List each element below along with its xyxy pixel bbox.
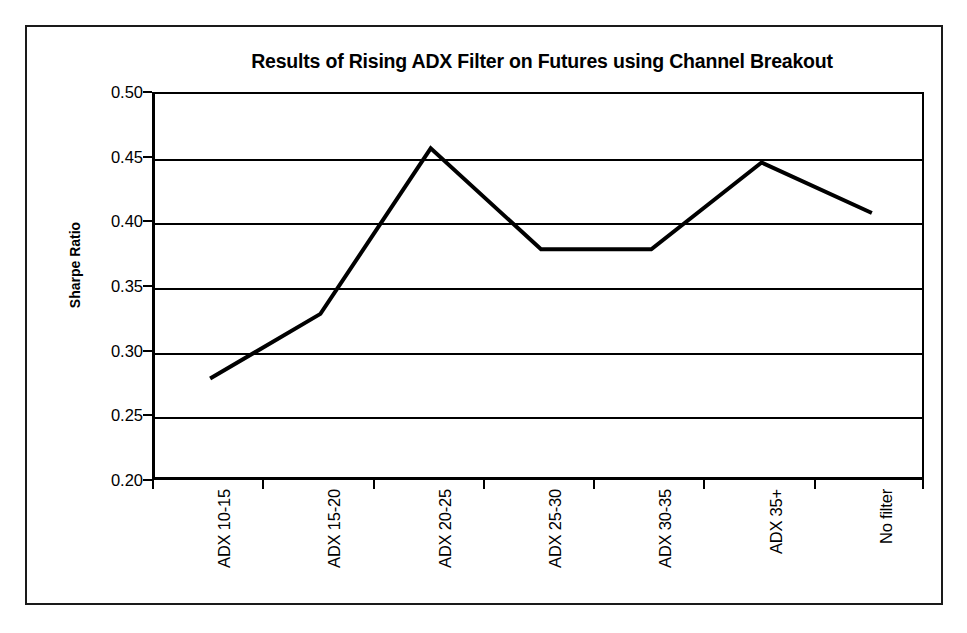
x-tick-mark: [373, 480, 375, 489]
x-tick-mark: [703, 480, 705, 489]
x-tick-mark: [593, 480, 595, 489]
y-tick-label: 0.40: [87, 212, 143, 231]
y-tick-mark: [143, 285, 152, 287]
gridline: [155, 417, 922, 419]
y-tick-label: 0.45: [87, 147, 143, 166]
x-tick-label: ADX 35+: [767, 489, 786, 554]
gridline: [155, 288, 922, 290]
gridline: [155, 223, 922, 225]
y-tick-label: 0.50: [87, 83, 143, 102]
chart-figure-border: Results of Rising ADX Filter on Futures …: [25, 25, 943, 605]
x-axis-label-layer: ADX 10-15ADX 15-20ADX 20-25ADX 25-30ADX …: [152, 489, 924, 609]
x-tick-label: ADX 30-35: [656, 489, 675, 568]
gridline: [155, 353, 922, 355]
gridline: [155, 159, 922, 161]
x-tick-mark: [922, 480, 924, 489]
y-tick-label: 0.35: [87, 277, 143, 296]
x-tick-label: ADX 25-30: [546, 489, 565, 568]
x-tick-label: ADX 15-20: [325, 489, 344, 568]
x-tick-mark: [483, 480, 485, 489]
x-tick-mark: [814, 480, 816, 489]
y-tick-mark: [143, 479, 152, 481]
y-tick-mark: [143, 156, 152, 158]
chart-title: Results of Rising ADX Filter on Futures …: [152, 50, 932, 73]
y-axis-title: Sharpe Ratio: [67, 205, 83, 325]
y-tick-label: 0.20: [87, 471, 143, 490]
y-tick-mark: [143, 350, 152, 352]
y-tick-mark: [143, 414, 152, 416]
y-tick-mark: [143, 91, 152, 93]
x-tick-mark: [152, 480, 154, 489]
y-tick-label: 0.30: [87, 341, 143, 360]
y-tick-mark: [143, 220, 152, 222]
y-tick-label: 0.25: [87, 406, 143, 425]
x-tick-label: ADX 10-15: [215, 489, 234, 568]
plot-area: [152, 92, 924, 480]
x-tick-label: ADX 20-25: [436, 489, 455, 568]
x-tick-label: No filter: [877, 489, 896, 544]
x-tick-mark: [262, 480, 264, 489]
